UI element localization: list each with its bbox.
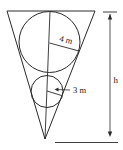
arrow-up-icon xyxy=(108,14,112,20)
height-label: h xyxy=(114,75,119,85)
cone-axis xyxy=(45,11,50,139)
cone-circles-diagram: 4 m 3 m h xyxy=(0,0,123,150)
arrowhead-icon xyxy=(55,88,59,92)
cone-triangle xyxy=(7,11,95,139)
large-radius-label: 4 m xyxy=(59,33,74,46)
small-radius-label: 3 m xyxy=(73,85,86,95)
small-radius-line xyxy=(47,91,62,96)
arrow-down-icon xyxy=(108,132,112,138)
